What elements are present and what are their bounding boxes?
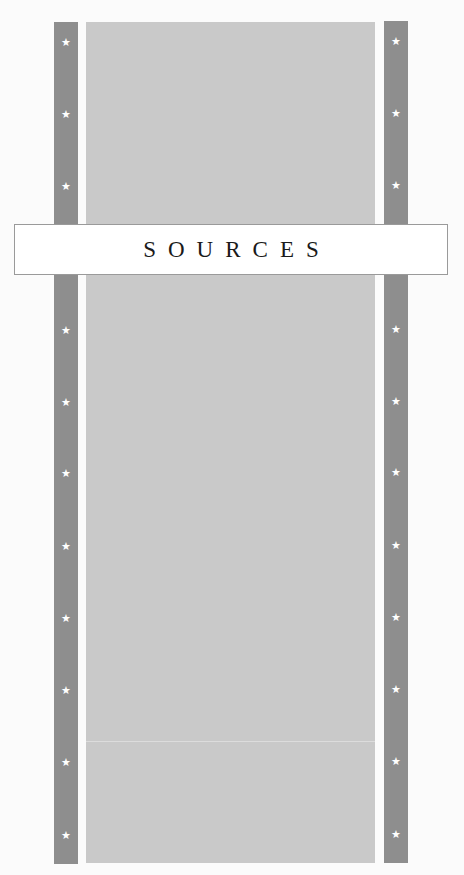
star-icon: ★ xyxy=(54,181,78,193)
star-icon: ★ xyxy=(54,541,78,553)
star-icon: ★ xyxy=(384,396,408,408)
star-icon: ★ xyxy=(384,467,408,479)
star-icon: ★ xyxy=(384,324,408,336)
star-icon: ★ xyxy=(54,613,78,625)
star-icon: ★ xyxy=(54,37,78,49)
left-star-stripe: ★★★★★★★★★★★ xyxy=(54,22,78,864)
star-icon: ★ xyxy=(54,757,78,769)
star-icon: ★ xyxy=(384,180,408,192)
star-icon: ★ xyxy=(384,612,408,624)
star-icon: ★ xyxy=(54,468,78,480)
star-icon: ★ xyxy=(384,540,408,552)
star-icon: ★ xyxy=(54,325,78,337)
center-panel xyxy=(86,22,375,863)
star-icon: ★ xyxy=(384,829,408,841)
banner-title: SOURCES xyxy=(131,237,331,263)
star-icon: ★ xyxy=(54,397,78,409)
right-star-stripe: ★★★★★★★★★★★ xyxy=(384,21,408,863)
star-icon: ★ xyxy=(54,830,78,842)
star-icon: ★ xyxy=(384,36,408,48)
sources-banner: SOURCES xyxy=(14,224,448,275)
star-icon: ★ xyxy=(384,108,408,120)
star-icon: ★ xyxy=(54,685,78,697)
star-icon: ★ xyxy=(384,756,408,768)
panel-divider xyxy=(86,741,375,742)
star-icon: ★ xyxy=(54,109,78,121)
star-icon: ★ xyxy=(384,684,408,696)
